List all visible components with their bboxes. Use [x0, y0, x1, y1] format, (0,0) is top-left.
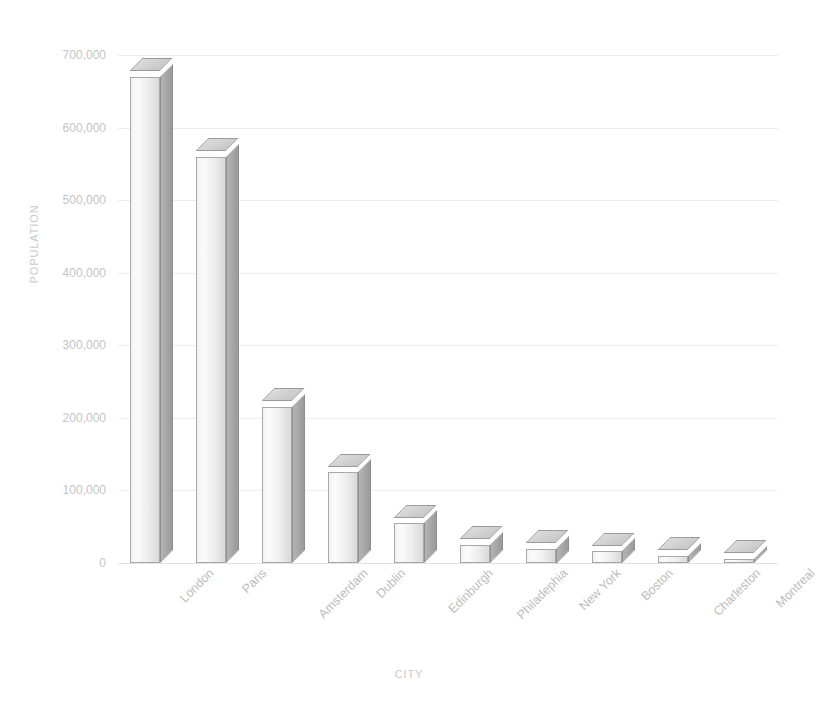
bar-chart: POPULATION 0100,000200,000300,000400,000…	[0, 0, 818, 725]
bar	[724, 546, 767, 563]
x-axis-tick-label: Charleston	[711, 566, 764, 619]
bar-side-face	[160, 64, 173, 563]
x-axis-tick-label: Edinburgh	[446, 566, 496, 616]
bar-series	[118, 55, 778, 563]
bar	[394, 510, 437, 563]
bar	[196, 144, 239, 563]
bar	[658, 543, 701, 563]
bar	[130, 64, 173, 563]
bar-side-face	[358, 459, 371, 563]
bar-front-face	[724, 559, 754, 563]
bar	[328, 459, 371, 563]
y-axis-tick-label: 200,000	[63, 411, 106, 425]
y-axis-tick-label: 400,000	[63, 266, 106, 280]
bar-front-face	[526, 549, 556, 564]
bar-front-face	[658, 556, 688, 563]
bar-side-face	[226, 144, 239, 563]
x-axis-tick-label: Philadephia	[514, 566, 570, 622]
y-axis-title: POPULATION	[28, 174, 40, 314]
x-axis-tick-label: Paris	[239, 566, 269, 596]
x-axis-tick-label: Dublin	[373, 566, 408, 601]
y-axis-tick-label: 300,000	[63, 338, 106, 352]
y-axis-tick-label: 700,000	[63, 48, 106, 62]
bar-side-face	[424, 510, 437, 563]
gridline	[118, 563, 778, 564]
y-axis-tick-label: 100,000	[63, 483, 106, 497]
x-axis-tick-label: New York	[576, 566, 623, 613]
x-axis-tick-label: Boston	[638, 566, 675, 603]
bar-side-face	[292, 394, 305, 563]
bar-front-face	[394, 523, 424, 563]
bar	[460, 532, 503, 563]
y-axis-tick-label: 500,000	[63, 193, 106, 207]
bar-front-face	[328, 472, 358, 563]
plot-area: 0100,000200,000300,000400,000500,000600,…	[118, 55, 778, 563]
x-axis-tick-labels: LondonParisAmsterdamDublinEdinburghPhila…	[118, 566, 778, 666]
y-axis-tick-label: 600,000	[63, 121, 106, 135]
bar	[526, 536, 569, 564]
bar-front-face	[262, 407, 292, 563]
x-axis-title: CITY	[0, 668, 818, 680]
x-axis-tick-label: Amsterdam	[316, 566, 371, 621]
bar-front-face	[460, 545, 490, 563]
x-axis-tick-label: London	[177, 566, 216, 605]
bar-front-face	[130, 77, 160, 563]
bar-front-face	[592, 551, 622, 563]
bar	[262, 394, 305, 563]
x-axis-tick-label: Montreal	[773, 566, 817, 610]
y-axis-tick-label: 0	[99, 556, 106, 570]
bar	[592, 538, 635, 563]
bar-front-face	[196, 157, 226, 563]
